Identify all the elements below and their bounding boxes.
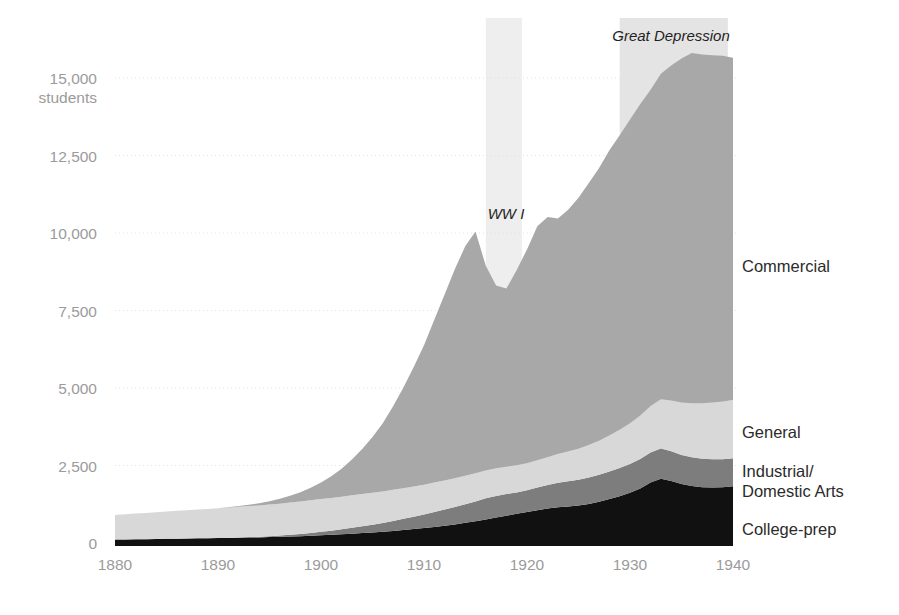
annotation-great-depression-label: Great Depression bbox=[612, 27, 730, 44]
x-tick-label: 1900 bbox=[304, 556, 339, 573]
y-axis-labels: 02,5005,0007,50010,00012,50015,000studen… bbox=[38, 70, 97, 552]
y-tick-label: 2,500 bbox=[58, 458, 97, 475]
area-series-group bbox=[115, 53, 733, 543]
series-label-general: General bbox=[742, 423, 801, 441]
series-label-college-prep: College-prep bbox=[742, 520, 836, 538]
series-labels: Commercial General Industrial/ Domestic … bbox=[742, 257, 844, 538]
y-axis-unit-label: students bbox=[38, 89, 97, 106]
x-tick-label: 1920 bbox=[510, 556, 545, 573]
x-tick-label: 1940 bbox=[716, 556, 751, 573]
y-tick-label: 7,500 bbox=[58, 303, 97, 320]
chart-canvas: 02,5005,0007,50010,00012,50015,000studen… bbox=[0, 0, 899, 615]
y-tick-label: 5,000 bbox=[58, 380, 97, 397]
y-tick-label: 10,000 bbox=[50, 225, 98, 242]
x-axis-labels: 1880189019001910192019301940 bbox=[98, 556, 751, 573]
x-tick-label: 1890 bbox=[201, 556, 236, 573]
series-label-industrial-line2: Domestic Arts bbox=[742, 482, 844, 500]
series-label-commercial: Commercial bbox=[742, 257, 830, 275]
y-tick-label: 0 bbox=[88, 535, 97, 552]
y-tick-label: 15,000 bbox=[50, 70, 98, 87]
y-tick-label: 12,500 bbox=[50, 148, 98, 165]
x-tick-label: 1880 bbox=[98, 556, 133, 573]
x-tick-label: 1930 bbox=[613, 556, 648, 573]
stacked-area-chart: 02,5005,0007,50010,00012,50015,000studen… bbox=[0, 0, 899, 615]
annotation-ww1-label: WW I bbox=[488, 205, 525, 222]
series-label-industrial-line1: Industrial/ bbox=[742, 462, 814, 480]
x-tick-label: 1910 bbox=[407, 556, 442, 573]
